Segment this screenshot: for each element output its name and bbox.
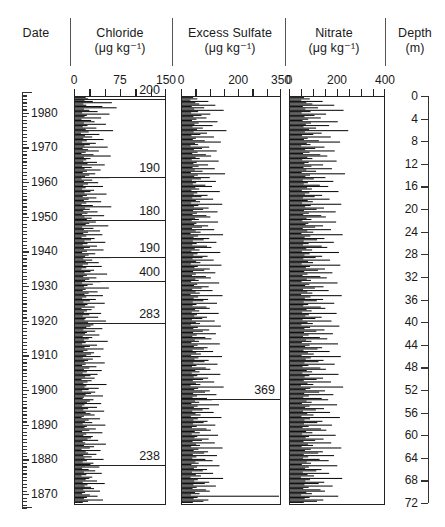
annotation-rule-chloride-5 [75,323,164,324]
annotation-value-chloride-0: 200 [118,84,160,97]
annotation-rule-chloride-3 [75,257,164,258]
annotation-value-chloride-3: 190 [118,242,160,255]
annotation-value-chloride-4: 400 [118,266,160,279]
annotation-value-chloride-2: 180 [118,205,160,218]
annotation-value-chloride-5: 283 [118,308,160,321]
annotation-rule-chloride-6 [75,465,164,466]
annotation-rule-excess-sulfate-0 [182,399,279,400]
annotation-value-excess-sulfate-0: 369 [233,384,275,397]
annotation-rule-chloride-0 [75,99,164,100]
annotation-rule-chloride-2 [75,220,164,221]
annotation-value-chloride-6: 238 [118,450,160,463]
overshoot-annotations: 200190180190400283238369 [0,0,445,527]
ice-core-chemistry-figure: Date Chloride (μg kg⁻¹) Excess Sulfate (… [0,0,445,527]
annotation-rule-chloride-1 [75,177,164,178]
annotation-value-chloride-1: 190 [118,162,160,175]
annotation-rule-chloride-4 [75,281,164,282]
